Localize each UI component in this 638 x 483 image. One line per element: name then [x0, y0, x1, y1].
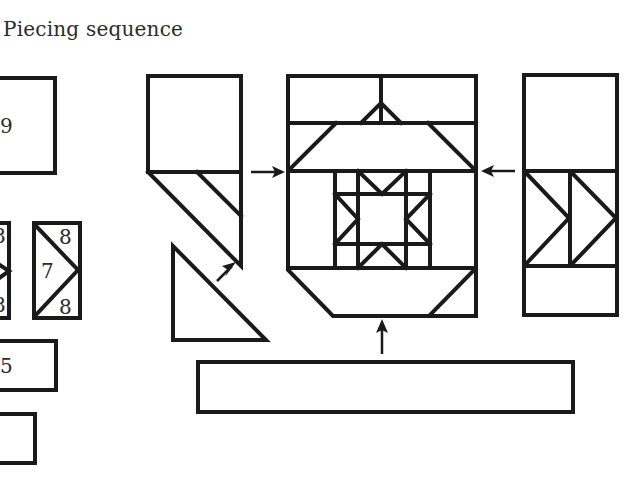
left-column-assembly	[148, 76, 241, 266]
bottom-strip	[198, 362, 573, 412]
piece-5: 5	[0, 341, 56, 390]
partial-unit-bottom-label: 8	[0, 293, 6, 317]
arrow-right-column-to-center	[481, 165, 515, 177]
arrow-triangle-to-left-column	[217, 262, 236, 281]
piece-9-label: 9	[0, 114, 13, 138]
piece-9: 9	[0, 78, 55, 173]
center-block	[288, 76, 476, 316]
piece-5-label: 5	[0, 354, 13, 378]
unit-7-center-label: 7	[41, 259, 54, 283]
unit-7-top-label: 8	[59, 225, 72, 249]
corner-triangle	[173, 246, 266, 340]
bottom-left-piece	[0, 414, 35, 463]
star-block	[335, 171, 430, 268]
partial-flying-geese-unit: 8 8	[0, 223, 9, 318]
unit-7-bottom-label: 8	[59, 295, 72, 319]
arrow-bottom-strip-to-center	[376, 319, 388, 354]
arrow-left-column-to-center	[251, 166, 285, 178]
flying-geese-unit-7: 7 8 8	[34, 223, 80, 319]
right-column-assembly	[524, 75, 617, 315]
partial-unit-top-label: 8	[0, 224, 6, 248]
piecing-diagram: 9 8 8 7 8 8 5	[0, 0, 638, 483]
